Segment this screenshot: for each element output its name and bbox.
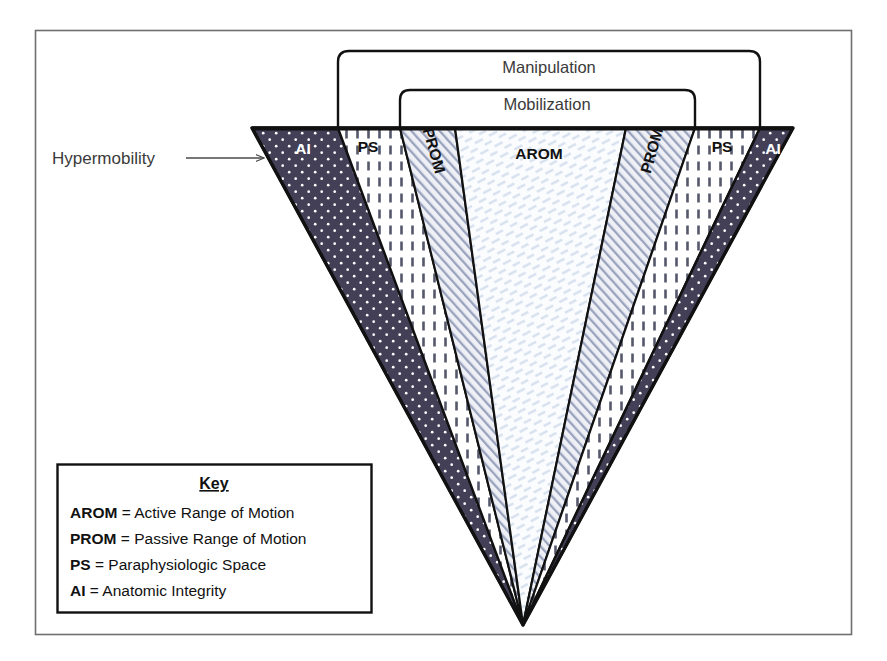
key-entry-arom: AROM = Active Range of Motion: [70, 504, 294, 521]
key-entry-prom-abbr: PROM: [70, 530, 117, 547]
key-entry-ai-abbr: AI: [70, 582, 86, 599]
band-label-ai-right: AI: [765, 140, 781, 157]
band-label-ps-right: PS: [712, 138, 733, 155]
bracket-mobilization: Mobilization: [400, 90, 695, 128]
key-entry-prom-def: Passive Range of Motion: [134, 530, 306, 547]
key-entry-ps-abbr: PS: [70, 556, 91, 573]
key-entry-ps-sep: =: [91, 556, 109, 573]
key-box: Key AROM = Active Range of Motion PROM =…: [58, 465, 372, 613]
key-entry-ps: PS = Paraphysiologic Space: [70, 556, 266, 573]
band-label-ai-left: AI: [295, 140, 311, 157]
range-of-motion-diagram: Manipulation Mobilization: [0, 0, 887, 661]
hypermobility-label: Hypermobility: [52, 149, 155, 168]
key-entry-arom-sep: =: [117, 504, 134, 521]
key-entry-ai-def: Anatomic Integrity: [102, 582, 226, 599]
key-entry-prom: PROM = Passive Range of Motion: [70, 530, 307, 547]
key-entry-arom-def: Active Range of Motion: [134, 504, 294, 521]
band-label-arom: AROM: [515, 145, 562, 162]
key-entry-ai-sep: =: [86, 582, 103, 599]
figure-canvas: Manipulation Mobilization: [0, 0, 887, 661]
key-entry-ps-def: Paraphysiologic Space: [108, 556, 266, 573]
band-label-ps-left: PS: [358, 138, 379, 155]
key-entry-prom-sep: =: [117, 530, 135, 547]
key-entry-ai: AI = Anatomic Integrity: [70, 582, 227, 599]
key-entry-arom-abbr: AROM: [70, 504, 117, 521]
bracket-manipulation-label: Manipulation: [502, 58, 596, 76]
bracket-mobilization-label: Mobilization: [503, 95, 590, 113]
key-title: Key: [199, 475, 228, 492]
